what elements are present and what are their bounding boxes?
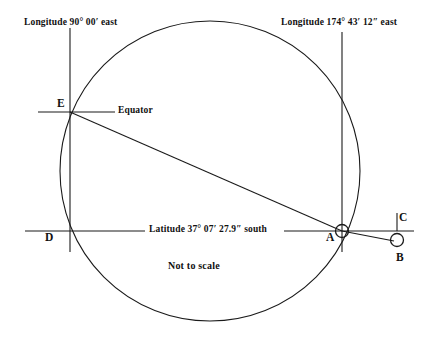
segment-a-to-b <box>342 231 394 241</box>
point-label-d: D <box>45 232 53 244</box>
chord-e-to-a <box>70 112 342 231</box>
latitude-label: Latitude 37° 07′ 27.9″ south <box>147 225 269 235</box>
geographic-diagram: Longitude 90° 00′ east Longitude 174° 43… <box>0 0 430 342</box>
point-label-a: A <box>326 232 334 244</box>
longitude-right-label: Longitude 174° 43′ 12″ east <box>281 18 397 28</box>
great-circle <box>60 21 360 321</box>
not-to-scale-label: Not to scale <box>168 261 220 271</box>
longitude-left-label: Longitude 90° 00′ east <box>24 18 117 28</box>
equator-label: Equator <box>118 106 153 116</box>
point-label-b: B <box>396 252 404 264</box>
point-marker-b <box>391 234 404 247</box>
point-label-c: C <box>399 212 407 224</box>
diagram-canvas <box>0 0 430 342</box>
point-label-e: E <box>57 98 65 110</box>
